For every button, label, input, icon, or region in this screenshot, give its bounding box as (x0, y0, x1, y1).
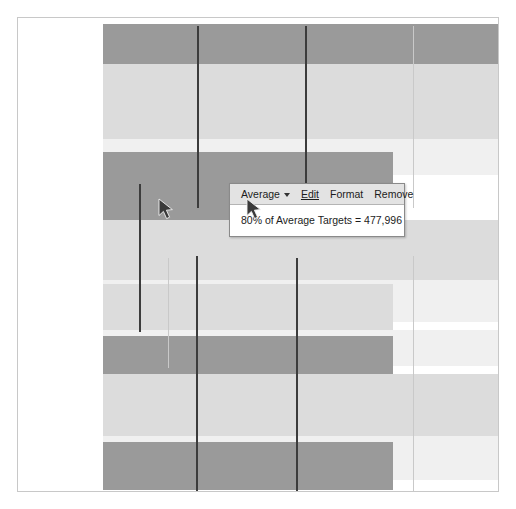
tooltip-value-text: 80% of Average Targets = 477,996 (230, 205, 404, 236)
chart-bar[interactable] (103, 442, 393, 490)
remove-button[interactable]: Remove (374, 188, 413, 200)
reference-line[interactable] (197, 26, 199, 208)
chart-bar[interactable] (103, 284, 393, 330)
reference-line[interactable] (139, 184, 141, 332)
screenshot-canvas: Average Edit Format Remove 80% of Averag… (0, 0, 516, 509)
average-target-tooltip[interactable]: Average Edit Format Remove 80% of Averag… (229, 183, 405, 237)
series-label: Average (241, 188, 280, 200)
chart-bar[interactable] (103, 24, 498, 64)
series-selector[interactable]: Average (241, 188, 290, 200)
reference-line[interactable] (168, 258, 169, 368)
chart-plot-area[interactable] (18, 18, 498, 491)
chart-bar[interactable] (103, 374, 498, 436)
reference-line[interactable] (305, 26, 307, 208)
edit-button[interactable]: Edit (301, 188, 319, 200)
chart-bar[interactable] (103, 64, 498, 139)
reference-line[interactable] (413, 256, 414, 491)
reference-line[interactable] (413, 26, 414, 208)
tooltip-header: Average Edit Format Remove (230, 184, 404, 205)
reference-line[interactable] (296, 258, 298, 491)
chevron-down-icon[interactable] (284, 193, 290, 197)
format-button[interactable]: Format (330, 188, 363, 200)
chart-frame: Average Edit Format Remove 80% of Averag… (17, 17, 499, 492)
reference-line[interactable] (196, 256, 198, 491)
